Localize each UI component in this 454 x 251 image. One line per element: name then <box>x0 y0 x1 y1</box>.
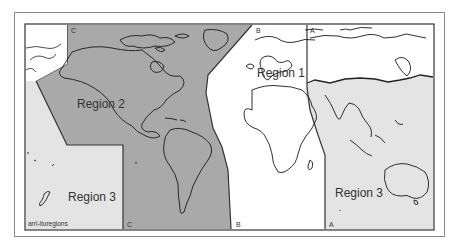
marker-b-bottom: B <box>236 221 241 228</box>
region-2-label: Region 2 <box>77 97 125 111</box>
marker-b-top: B <box>256 27 261 34</box>
marker-a-bottom: A <box>329 221 334 228</box>
itu-regions-map: Region 2 Region 1 Region 3 Region 3 C C … <box>0 0 454 251</box>
region-3-west-label: Region 3 <box>68 190 116 204</box>
region-3-east-label: Region 3 <box>335 186 383 200</box>
map-caption: arrl-ituregions <box>28 220 68 228</box>
marker-c-top: C <box>71 27 76 34</box>
marker-c-bottom: C <box>127 221 132 228</box>
marker-a-top: A <box>310 27 315 34</box>
region-1-label: Region 1 <box>257 66 305 80</box>
